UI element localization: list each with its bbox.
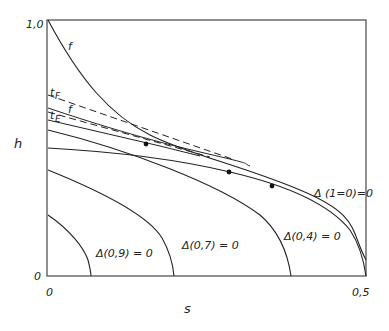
tF-sub: F — [55, 91, 61, 101]
x-tick-max: 0,5 — [352, 286, 370, 299]
x-tick-min: 0 — [46, 286, 53, 299]
f-label-top: f — [68, 40, 74, 53]
delta-0.7-label: Δ(0,7) = 0 — [181, 239, 239, 252]
delta-0.9-label: Δ(0,9) = 0 — [95, 247, 153, 260]
point-1 — [144, 142, 149, 147]
f-label-mid: f — [68, 103, 74, 116]
y-axis-label: h — [14, 136, 22, 151]
point-2 — [227, 170, 232, 175]
delta-1-label: Δ (1=0)=0 — [313, 187, 373, 200]
delta-0.4-label: Δ(0,4) = 0 — [283, 230, 341, 243]
point-3 — [270, 184, 275, 189]
x-axis-label: s — [184, 301, 191, 316]
tE-sub: E — [55, 114, 61, 124]
y-tick-min: 0 — [34, 270, 41, 283]
y-tick-max: 1,0 — [26, 18, 44, 31]
f-curve — [48, 20, 366, 260]
tE-solid-line — [48, 120, 200, 156]
diagram-canvas: f f t F t E Δ(0,9) = 0 Δ(0,7) = 0 Δ(0,4)… — [0, 0, 389, 331]
delta-0.7-curve — [48, 170, 174, 276]
delta-0.9-curve — [48, 215, 91, 276]
